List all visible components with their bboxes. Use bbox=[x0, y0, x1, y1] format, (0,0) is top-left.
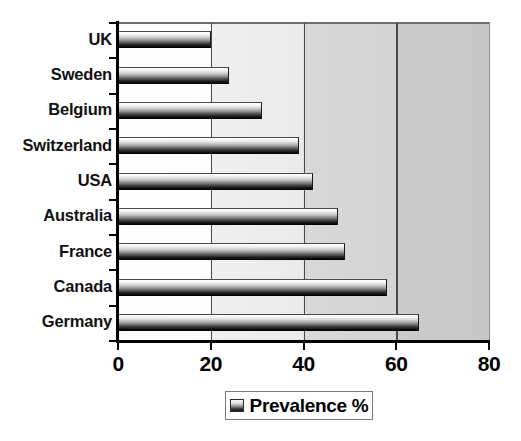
plot-right-border bbox=[489, 22, 491, 342]
x-tick-label-40: 40 bbox=[274, 352, 334, 376]
category-label-switzerland: Switzerland bbox=[23, 136, 113, 155]
y-tick-0 bbox=[109, 22, 117, 24]
bar-uk bbox=[118, 31, 211, 48]
category-label-germany: Germany bbox=[42, 312, 112, 331]
y-axis-line bbox=[116, 21, 119, 343]
bar-belgium bbox=[118, 102, 262, 119]
y-tick-1 bbox=[109, 57, 117, 59]
x-tick-label-0: 0 bbox=[88, 352, 148, 376]
y-tick-9 bbox=[109, 340, 117, 342]
bar-switzerland bbox=[118, 137, 299, 154]
x-tick-0 bbox=[117, 342, 119, 350]
category-label-australia: Australia bbox=[43, 206, 112, 225]
category-label-sweden: Sweden bbox=[51, 65, 112, 84]
bar-france bbox=[118, 243, 345, 260]
x-tick-40 bbox=[303, 342, 305, 350]
y-tick-4 bbox=[109, 163, 117, 165]
legend-swatch-icon bbox=[230, 399, 244, 412]
x-tick-60 bbox=[395, 342, 397, 350]
gridline-60 bbox=[396, 23, 398, 341]
x-tick-20 bbox=[210, 342, 212, 350]
x-tick-label-20: 20 bbox=[181, 352, 241, 376]
bar-germany bbox=[118, 314, 419, 331]
y-tick-7 bbox=[109, 269, 117, 271]
chart-legend: Prevalence % bbox=[225, 391, 373, 420]
x-tick-label-80: 80 bbox=[459, 352, 519, 376]
bar-canada bbox=[118, 279, 387, 296]
legend-label: Prevalence % bbox=[250, 395, 369, 417]
bar-australia bbox=[118, 208, 338, 225]
bar-chart: UKSwedenBelgiumSwitzerlandUSAAustraliaFr… bbox=[0, 0, 521, 441]
category-label-usa: USA bbox=[78, 171, 112, 190]
x-tick-label-60: 60 bbox=[366, 352, 426, 376]
y-tick-3 bbox=[109, 128, 117, 130]
y-tick-5 bbox=[109, 199, 117, 201]
y-tick-6 bbox=[109, 234, 117, 236]
y-tick-2 bbox=[109, 93, 117, 95]
y-tick-8 bbox=[109, 305, 117, 307]
category-label-uk: UK bbox=[89, 30, 112, 49]
bar-usa bbox=[118, 173, 313, 190]
category-label-belgium: Belgium bbox=[48, 100, 112, 119]
category-label-canada: Canada bbox=[54, 277, 112, 296]
bar-sweden bbox=[118, 67, 229, 84]
category-label-france: France bbox=[59, 242, 112, 261]
x-tick-80 bbox=[488, 342, 490, 350]
